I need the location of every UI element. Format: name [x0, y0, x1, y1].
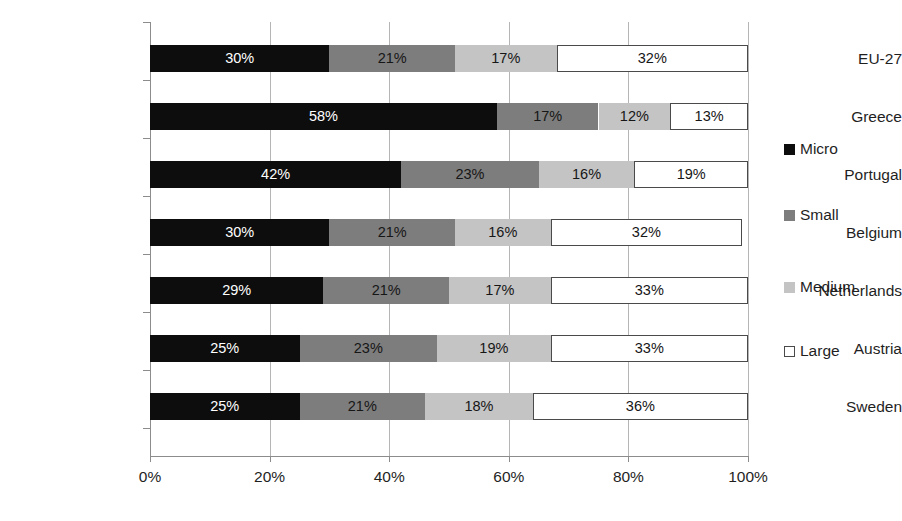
x-tick-label-60: 60%	[469, 468, 549, 486]
bar-row-austria: 25%23%19%33%	[150, 335, 748, 362]
bar-segment-large: 33%	[551, 335, 748, 362]
bar-value-label: 19%	[479, 341, 508, 356]
bar-value-label: 58%	[309, 109, 338, 124]
bar-value-label: 42%	[261, 167, 290, 182]
x-tick-mark-100	[748, 456, 749, 462]
y-tick-mark-2	[143, 138, 150, 139]
legend-swatch-small-icon	[784, 210, 795, 221]
bar-value-label: 25%	[210, 341, 239, 356]
x-tick-mark-40	[389, 456, 390, 462]
bar-segment-large: 33%	[551, 277, 748, 304]
bar-value-label: 29%	[222, 283, 251, 298]
legend-label-medium: Medium	[800, 278, 855, 296]
bar-value-label: 19%	[677, 167, 706, 182]
bar-row-netherlands: 29%21%17%33%	[150, 277, 748, 304]
bar-segment-large: 19%	[634, 161, 748, 188]
bar-value-label: 36%	[626, 399, 655, 414]
bar-segment-micro: 42%	[150, 161, 401, 188]
bar-value-label: 18%	[464, 399, 493, 414]
legend-label-small: Small	[800, 206, 839, 224]
y-tick-mark-3	[143, 196, 150, 197]
bar-value-label: 16%	[572, 167, 601, 182]
bar-segment-small: 21%	[329, 219, 455, 246]
bar-segment-medium: 19%	[437, 335, 551, 362]
bar-segment-micro: 58%	[150, 103, 497, 130]
bar-value-label: 21%	[378, 51, 407, 66]
x-axis-line	[150, 456, 749, 457]
legend-swatch-medium-icon	[784, 282, 795, 293]
legend-label-micro: Micro	[800, 140, 838, 158]
y-tick-mark-0	[143, 22, 150, 23]
legend-label-large: Large	[800, 342, 840, 360]
category-label-portugal: Portugal	[762, 166, 902, 184]
bar-value-label: 13%	[695, 109, 724, 124]
bar-segment-micro: 25%	[150, 393, 300, 420]
bar-segment-small: 23%	[401, 161, 539, 188]
bar-segment-micro: 25%	[150, 335, 300, 362]
bar-value-label: 32%	[632, 225, 661, 240]
bar-segment-medium: 16%	[455, 219, 551, 246]
x-tick-mark-60	[509, 456, 510, 462]
x-tick-label-40: 40%	[349, 468, 429, 486]
x-tick-mark-20	[270, 456, 271, 462]
bar-segment-small: 21%	[300, 393, 426, 420]
bar-segment-small: 21%	[323, 277, 449, 304]
legend-item-micro[interactable]: Micro	[784, 140, 838, 158]
bar-segment-large: 13%	[670, 103, 748, 130]
bar-value-label: 30%	[225, 225, 254, 240]
legend-swatch-micro-icon	[784, 144, 795, 155]
bar-value-label: 25%	[210, 399, 239, 414]
category-label-greece: Greece	[762, 108, 902, 126]
bar-segment-medium: 17%	[449, 277, 551, 304]
bar-value-label: 33%	[635, 283, 664, 298]
bar-value-label: 17%	[485, 283, 514, 298]
category-label-sweden: Sweden	[762, 398, 902, 416]
bar-value-label: 21%	[378, 225, 407, 240]
category-label-eu-27: EU-27	[762, 50, 902, 68]
bar-row-portugal: 42%23%16%19%	[150, 161, 748, 188]
bar-value-label: 17%	[491, 51, 520, 66]
bar-value-label: 30%	[225, 51, 254, 66]
category-label-belgium: Belgium	[762, 224, 902, 242]
bar-row-greece: 58%17%12%13%	[150, 103, 748, 130]
x-tick-label-100: 100%	[708, 468, 788, 486]
bar-segment-micro: 30%	[150, 219, 329, 246]
bar-value-label: 32%	[638, 51, 667, 66]
stacked-bar-chart: EU-27GreecePortugalBelgiumNetherlandsAus…	[0, 0, 902, 521]
legend-swatch-large-icon	[784, 346, 795, 357]
bar-segment-micro: 29%	[150, 277, 323, 304]
bar-value-label: 23%	[354, 341, 383, 356]
x-tick-mark-0	[150, 456, 151, 462]
legend-item-small[interactable]: Small	[784, 206, 839, 224]
legend-item-medium[interactable]: Medium	[784, 278, 855, 296]
bar-value-label: 33%	[635, 341, 664, 356]
bar-value-label: 16%	[488, 225, 517, 240]
bar-segment-large: 32%	[551, 219, 742, 246]
bar-segment-small: 23%	[300, 335, 438, 362]
bar-segment-medium: 12%	[599, 103, 671, 130]
bar-segment-small: 17%	[497, 103, 599, 130]
bar-value-label: 21%	[348, 399, 377, 414]
bar-row-belgium: 30%21%16%32%	[150, 219, 748, 246]
bar-row-sweden: 25%21%18%36%	[150, 393, 748, 420]
gridline-100	[748, 22, 749, 456]
bar-value-label: 17%	[533, 109, 562, 124]
bar-segment-large: 36%	[533, 393, 748, 420]
y-tick-mark-4	[143, 254, 150, 255]
y-tick-mark-1	[143, 80, 150, 81]
legend-item-large[interactable]: Large	[784, 342, 840, 360]
bar-value-label: 12%	[620, 109, 649, 124]
y-tick-mark-7	[143, 428, 150, 429]
bar-segment-medium: 16%	[539, 161, 635, 188]
x-tick-label-80: 80%	[588, 468, 668, 486]
bar-value-label: 21%	[372, 283, 401, 298]
bar-segment-small: 21%	[329, 45, 455, 72]
x-tick-label-20: 20%	[230, 468, 310, 486]
y-tick-mark-5	[143, 312, 150, 313]
bar-segment-micro: 30%	[150, 45, 329, 72]
x-tick-label-0: 0%	[110, 468, 190, 486]
bar-segment-large: 32%	[557, 45, 748, 72]
x-tick-mark-80	[628, 456, 629, 462]
bar-segment-medium: 18%	[425, 393, 533, 420]
bar-value-label: 23%	[455, 167, 484, 182]
